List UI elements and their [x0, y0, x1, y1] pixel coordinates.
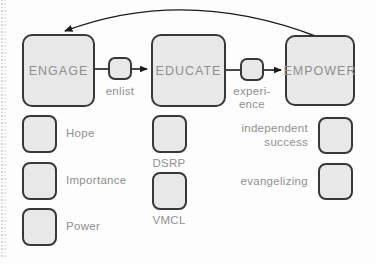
vmcl-item-label: VMCL — [139, 214, 199, 227]
hope-item-label: Hope — [66, 115, 95, 153]
diagram-page: ENGAGE EDUCATE EMPOWER enlist experi- en… — [0, 0, 376, 264]
evangelizing-item-box — [318, 163, 353, 200]
power-item-box — [22, 208, 57, 246]
enlist-connector-box — [108, 57, 132, 80]
enlist-connector-label: enlist — [95, 85, 145, 98]
feedback-arc-empower-to-engage — [65, 10, 318, 37]
independent-success-item-label: independent success — [208, 117, 308, 154]
page-perforation-edge — [1, 0, 3, 258]
engage-stage-box: ENGAGE — [22, 34, 95, 107]
empower-stage-label: EMPOWER — [284, 64, 357, 78]
importance-item-label: Importance — [66, 162, 127, 200]
dsrp-item-box — [152, 115, 187, 153]
page-perforation-edge-inner — [4, 0, 6, 258]
experience-connector-label: experi- ence — [227, 85, 277, 111]
educate-stage-box: EDUCATE — [151, 34, 226, 107]
independent-success-item-box — [318, 117, 353, 154]
empower-stage-box: EMPOWER — [285, 35, 355, 106]
importance-item-box — [22, 162, 57, 200]
evangelizing-item-label: evangelizing — [208, 163, 308, 200]
vmcl-item-box — [152, 172, 187, 210]
engage-stage-label: ENGAGE — [29, 64, 89, 78]
educate-stage-label: EDUCATE — [156, 64, 222, 78]
hope-item-box — [22, 115, 57, 153]
dsrp-item-label: DSRP — [139, 157, 199, 170]
experience-connector-box — [240, 58, 264, 81]
power-item-label: Power — [66, 208, 100, 246]
